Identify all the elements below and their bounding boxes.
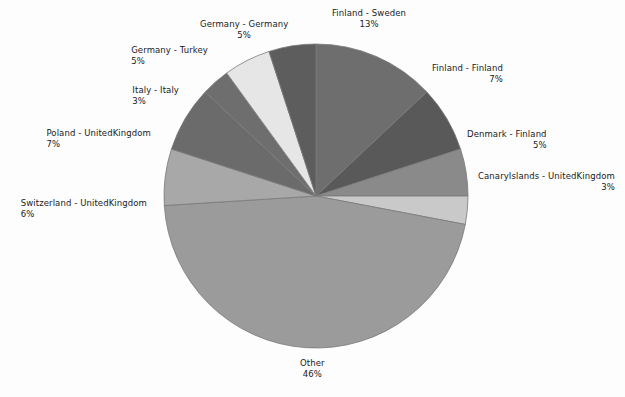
slice-label-canaryislands-unitedkingdom: CanaryIslands - UnitedKingdom 3%	[478, 171, 615, 193]
slice-label-percent: 5%	[200, 30, 288, 41]
slice-label-text: Italy - Italy	[132, 85, 179, 95]
slice-label-percent: 7%	[46, 139, 151, 150]
slice-label-denmark-finland: Denmark - Finland 5%	[467, 129, 547, 151]
pie-slice	[164, 196, 465, 348]
pie-slice-group	[164, 44, 468, 348]
slice-label-percent: 5%	[467, 140, 547, 151]
slice-label-other: Other 46%	[300, 358, 325, 380]
slice-label-germany-germany: Germany - Germany 5%	[200, 19, 288, 41]
slice-label-text: Poland - UnitedKingdom	[46, 128, 151, 138]
slice-label-percent: 46%	[300, 369, 325, 380]
slice-label-text: Denmark - Finland	[467, 129, 547, 139]
slice-label-switzerland-unitedkingdom: Switzerland - UnitedKingdom 6%	[21, 198, 147, 220]
slice-label-italy-italy: Italy - Italy 3%	[132, 85, 179, 107]
slice-label-percent: 5%	[131, 56, 208, 67]
slice-label-percent: 7%	[432, 74, 503, 85]
slice-label-text: Finland - Finland	[432, 63, 503, 73]
slice-label-text: Finland - Sweden	[332, 8, 406, 18]
slice-label-poland-unitedkingdom: Poland - UnitedKingdom 7%	[46, 128, 151, 150]
slice-label-finland-finland: Finland - Finland 7%	[432, 63, 503, 85]
slice-label-percent: 3%	[132, 96, 179, 107]
slice-label-percent: 3%	[478, 182, 615, 193]
pie-chart-figure: Finland - Sweden 13% Finland - Finland 7…	[0, 0, 625, 397]
slice-label-percent: 6%	[21, 209, 147, 220]
slice-label-text: Germany - Turkey	[131, 45, 208, 55]
slice-label-germany-turkey: Germany - Turkey 5%	[131, 45, 208, 67]
slice-label-percent: 13%	[332, 19, 406, 30]
slice-label-text: CanaryIslands - UnitedKingdom	[478, 171, 615, 181]
slice-label-finland-sweden: Finland - Sweden 13%	[332, 8, 406, 30]
slice-label-text: Germany - Germany	[200, 19, 288, 29]
slice-label-text: Other	[300, 358, 325, 368]
slice-label-text: Switzerland - UnitedKingdom	[21, 198, 147, 208]
